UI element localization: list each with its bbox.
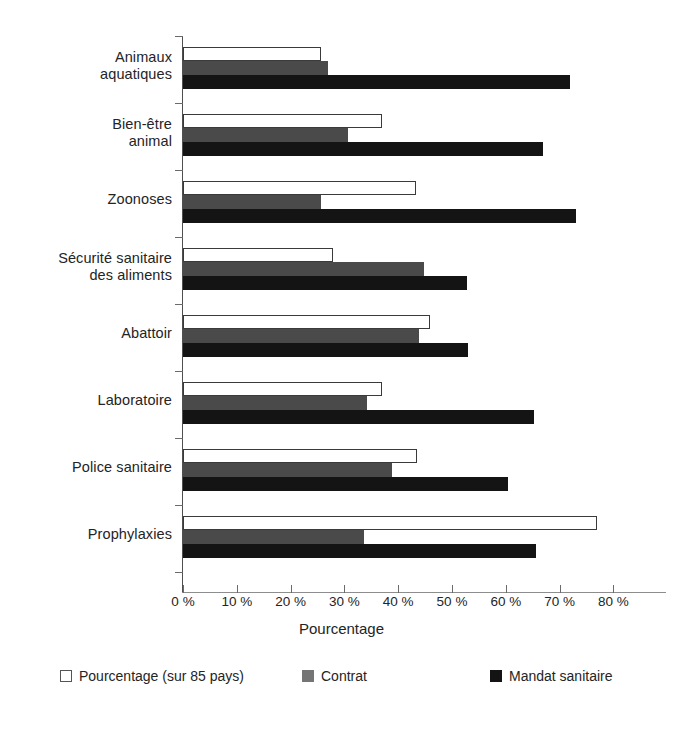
y-axis-tick — [175, 572, 183, 573]
bar-2-gray — [183, 128, 348, 142]
category-label-line: Sécurité sanitaire — [0, 250, 172, 268]
x-axis-tick — [506, 585, 507, 593]
y-axis-tick — [175, 438, 183, 439]
bar-4-black — [183, 276, 467, 290]
bar-6-black — [183, 410, 534, 424]
bar-1-black — [183, 75, 570, 89]
category-label-line: Zoonoses — [0, 191, 172, 209]
bar-5-black — [183, 343, 468, 357]
x-axis-tick — [452, 585, 453, 593]
x-axis-tick-label: 70 % — [544, 594, 575, 610]
x-axis-tick-label: 20 % — [275, 594, 306, 610]
legend-swatch-gray-icon — [302, 670, 314, 682]
category-label-line: Abattoir — [0, 325, 172, 343]
category-label-line: animal — [0, 133, 172, 151]
bar-1-gray — [183, 61, 328, 75]
legend-label: Pourcentage (sur 85 pays) — [79, 668, 244, 684]
bar-3-gray — [183, 195, 321, 209]
legend-item-1[interactable]: Pourcentage (sur 85 pays) — [60, 668, 244, 684]
category-label-3: Zoonoses — [0, 191, 172, 209]
category-label-5: Abattoir — [0, 325, 172, 343]
x-axis-tick — [613, 585, 614, 593]
legend-swatch-black-icon — [490, 670, 502, 682]
category-label-line: aquatiques — [0, 66, 172, 84]
category-label-1: Animauxaquatiques — [0, 49, 172, 84]
bar-6-gray — [183, 396, 367, 410]
legend-item-2[interactable]: Contrat — [302, 668, 367, 684]
bar-chart: AnimauxaquatiquesBien-êtreanimalZoonoses… — [0, 0, 683, 729]
x-axis-tick — [291, 585, 292, 593]
x-axis-tick-label: 30 % — [329, 594, 360, 610]
bar-5-gray — [183, 329, 419, 343]
chart-legend: Pourcentage (sur 85 pays)ContratMandat s… — [0, 668, 683, 696]
x-axis-tick-label: 10 % — [221, 594, 252, 610]
x-axis-tick — [560, 585, 561, 593]
x-axis-tick — [344, 585, 345, 593]
bar-8-gray — [183, 530, 364, 544]
category-label-6: Laboratoire — [0, 392, 172, 410]
x-axis-tick-label: 60 % — [490, 594, 521, 610]
x-axis-tick — [237, 585, 238, 593]
y-axis-tick — [175, 170, 183, 171]
legend-label: Contrat — [321, 668, 367, 684]
legend-item-3[interactable]: Mandat sanitaire — [490, 668, 613, 684]
y-axis-tick — [175, 371, 183, 372]
bar-2-black — [183, 142, 543, 156]
x-axis-tick-label: 50 % — [437, 594, 468, 610]
category-label-line: Prophylaxies — [0, 526, 172, 544]
y-axis-tick — [175, 505, 183, 506]
y-axis-tick — [175, 103, 183, 104]
bar-2-white — [183, 114, 382, 128]
bar-4-white — [183, 248, 333, 262]
y-axis-tick — [175, 237, 183, 238]
bar-3-black — [183, 209, 576, 223]
category-label-line: des aliments — [0, 267, 172, 285]
legend-swatch-white-icon — [60, 670, 72, 682]
bar-7-gray — [183, 463, 392, 477]
category-label-line: Animaux — [0, 49, 172, 67]
x-axis-tick-label: 80 % — [598, 594, 629, 610]
y-axis-tick — [175, 304, 183, 305]
category-label-8: Prophylaxies — [0, 526, 172, 544]
category-label-line: Police sanitaire — [0, 459, 172, 477]
bar-7-black — [183, 477, 508, 491]
bar-8-white — [183, 516, 597, 530]
x-axis-tick-label: 40 % — [383, 594, 414, 610]
category-label-4: Sécurité sanitairedes aliments — [0, 250, 172, 285]
category-label-line: Laboratoire — [0, 392, 172, 410]
bar-7-white — [183, 449, 417, 463]
legend-label: Mandat sanitaire — [509, 668, 613, 684]
bar-5-white — [183, 315, 430, 329]
bar-3-white — [183, 181, 416, 195]
bar-8-black — [183, 544, 536, 558]
x-axis-tick — [183, 585, 184, 593]
x-axis-title: Pourcentage — [0, 620, 683, 637]
x-axis-line — [182, 592, 666, 593]
x-axis-tick-label: 0 % — [171, 594, 194, 610]
bar-4-gray — [183, 262, 424, 276]
bar-1-white — [183, 47, 321, 61]
category-label-2: Bien-êtreanimal — [0, 116, 172, 151]
category-label-line: Bien-être — [0, 116, 172, 134]
bar-6-white — [183, 382, 382, 396]
category-label-7: Police sanitaire — [0, 459, 172, 477]
y-axis-tick — [175, 36, 183, 37]
x-axis-tick — [398, 585, 399, 593]
